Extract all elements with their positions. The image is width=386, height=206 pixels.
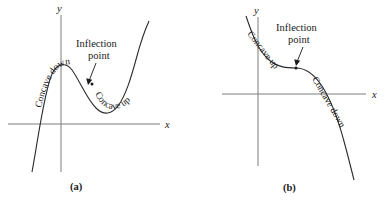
panel-b-label-concave-up: Concave up: [245, 29, 281, 71]
panel-a-label-concave-down-text: Concave: [33, 73, 54, 108]
panel-a-label-concave-up-text: Concave up: [93, 90, 132, 111]
panel-a-inflection-arrow-line: [89, 63, 96, 81]
panel-a-caption: (a): [70, 181, 83, 193]
panel-a-inflection-line2: point: [88, 50, 110, 61]
panel-b-label-concave-down-text: Concave down: [310, 75, 347, 129]
figure-canvas: x y Concave down Concave up Inflection: [0, 0, 386, 206]
panel-a-label-concave-up: Concave up: [93, 90, 132, 111]
panel-b-x-axis-label: x: [371, 89, 377, 100]
panel-a-inflection-dot: [91, 83, 94, 86]
panel-b-inflection-arrow-line: [297, 47, 303, 62]
panel-b-caption: (b): [283, 182, 296, 194]
panel-a-inflection-line1: Inflection: [76, 38, 118, 49]
panel-b-label-concave-up-text: Concave up: [245, 29, 281, 71]
panel-b: x y Concave up Concave down Inflection p…: [222, 5, 377, 194]
panel-b-inflection-arrow-head: [294, 59, 300, 66]
panel-a-y-axis-label: y: [56, 3, 62, 14]
panel-b-inflection-line2: point: [288, 34, 310, 45]
panel-a-label-down-text: down: [47, 56, 71, 76]
panel-a-label-concave-down: Concave down: [33, 56, 71, 109]
panel-b-label-concave-down: Concave down: [310, 75, 347, 129]
panel-a: x y Concave down Concave up Inflection: [8, 3, 170, 193]
panel-b-y-axis-label: y: [253, 5, 259, 16]
panel-b-inflection-line1: Inflection: [276, 22, 318, 33]
figure-concavity: x y Concave down Concave up Inflection: [0, 0, 386, 206]
panel-a-x-axis-label: x: [164, 119, 170, 130]
panel-b-inflection-dot: [294, 66, 297, 69]
